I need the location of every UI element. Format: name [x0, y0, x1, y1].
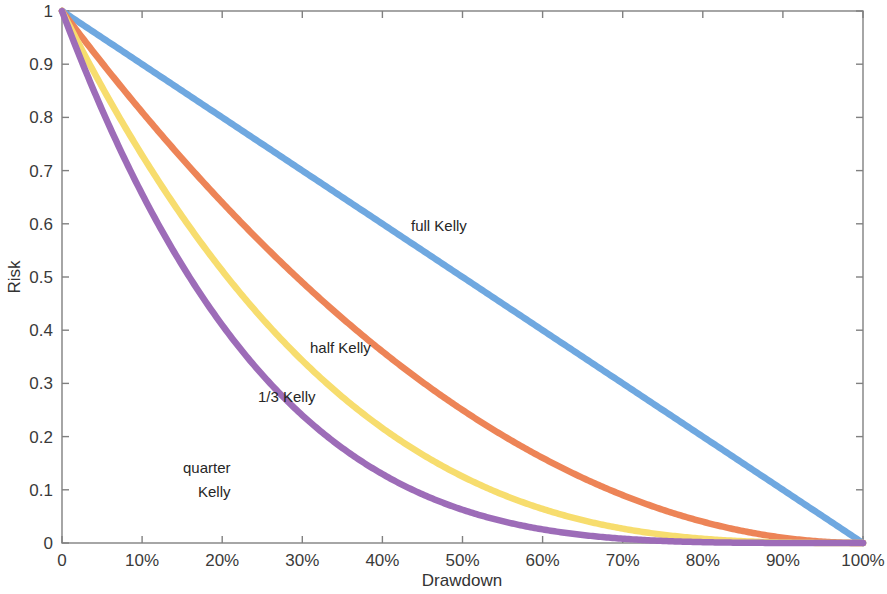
y-tick-label: 1: [44, 2, 53, 21]
x-tick-label: 80%: [686, 551, 720, 570]
x-tick-label: 10%: [125, 551, 159, 570]
y-tick-label: 0.8: [29, 108, 53, 127]
x-tick-label: 40%: [365, 551, 399, 570]
curve-annotation: half Kelly: [310, 339, 371, 356]
y-tick-label: 0: [44, 534, 53, 553]
y-tick-label: 0.9: [29, 55, 53, 74]
x-tick-label: 60%: [526, 551, 560, 570]
curve-annotation: full Kelly: [411, 217, 467, 234]
y-tick-label: 0.7: [29, 162, 53, 181]
x-tick-label: 70%: [606, 551, 640, 570]
y-tick-label: 0.3: [29, 374, 53, 393]
x-tick-label: 90%: [766, 551, 800, 570]
x-axis-title: Drawdown: [422, 571, 502, 590]
y-tick-label: 0.5: [29, 268, 53, 287]
x-tick-label: 30%: [285, 551, 319, 570]
y-tick-label: 0.4: [29, 321, 53, 340]
curve-annotation: quarter: [183, 459, 231, 476]
x-tick-label: 20%: [205, 551, 239, 570]
y-tick-label: 0.1: [29, 481, 53, 500]
curve-annotation: Kelly: [198, 483, 231, 500]
y-axis-title: Risk: [5, 260, 24, 294]
y-tick-label: 0.2: [29, 428, 53, 447]
x-tick-label: 50%: [445, 551, 479, 570]
curve-annotation: 1/3 Kelly: [258, 388, 316, 405]
y-tick-label: 0.6: [29, 215, 53, 234]
x-tick-label: 0: [57, 551, 66, 570]
kelly-risk-drawdown-chart: 010%20%30%40%50%60%70%80%90%100% 00.10.2…: [0, 0, 887, 594]
x-tick-label: 100%: [841, 551, 884, 570]
